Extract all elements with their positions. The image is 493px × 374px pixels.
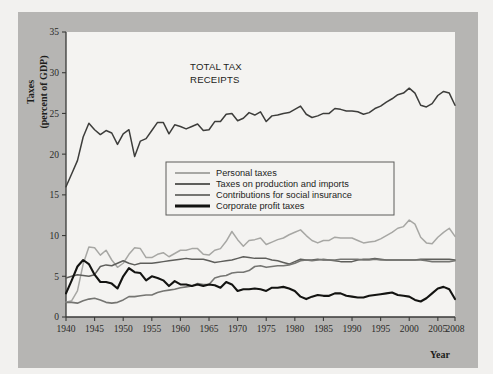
y-axis-title-line: Taxes	[25, 80, 36, 104]
tax-receipts-line-chart: 05101520253035 1940194519501955196019651…	[18, 12, 478, 368]
x-tick-label: 1985	[314, 324, 333, 334]
x-tick-label: 1970	[228, 324, 247, 334]
x-tick-label: 1990	[343, 324, 362, 334]
x-tick-label: 1995	[371, 324, 390, 334]
y-axis-title-line: (percent of GDP)	[38, 55, 50, 128]
y-tick-label: 10	[50, 231, 60, 241]
x-tick-label: 1955	[142, 324, 161, 334]
x-tick-label: 1945	[85, 324, 104, 334]
y-tick-label: 25	[50, 109, 60, 119]
annotation-line: RECEIPTS	[190, 74, 240, 85]
chart-container: 05101520253035 1940194519501955196019651…	[18, 12, 478, 368]
x-tick-label: 2000	[400, 324, 419, 334]
y-tick-label: 35	[50, 27, 60, 37]
y-axis-title: Taxes(percent of GDP)	[25, 55, 50, 128]
legend-label: Taxes on production and imports	[216, 179, 349, 189]
y-tick-label: 5	[54, 272, 59, 282]
y-tick-label: 15	[50, 190, 60, 200]
chart-legend: Personal taxesTaxes on production and im…	[166, 162, 394, 215]
y-axis: 05101520253035	[50, 27, 67, 322]
legend-label: Corporate profit taxes	[216, 201, 305, 211]
x-axis: 1940194519501955196019651970197519801985…	[57, 317, 465, 334]
annotation-line: TOTAL TAX	[190, 61, 242, 72]
y-tick-label: 20	[50, 150, 60, 160]
legend-label: Contributions for social insurance	[216, 190, 352, 200]
y-tick-label: 30	[50, 68, 60, 78]
x-tick-label: 1975	[257, 324, 276, 334]
x-tick-label: 1960	[171, 324, 190, 334]
x-tick-label: 1980	[285, 324, 304, 334]
x-tick-label: 1950	[114, 324, 133, 334]
x-axis-title: Year	[430, 349, 451, 360]
x-tick-label: 1940	[57, 324, 76, 334]
y-tick-label: 0	[54, 312, 59, 322]
figure-panel: 05101520253035 1940194519501955196019651…	[18, 12, 478, 368]
x-tick-label: 2008	[446, 324, 465, 334]
legend-label: Personal taxes	[216, 168, 277, 178]
x-tick-label: 1965	[200, 324, 219, 334]
